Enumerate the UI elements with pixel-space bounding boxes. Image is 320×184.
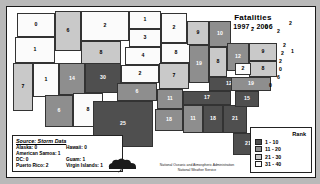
legend-swatch-4 [255,161,262,167]
map-image: 0162817143068134262528711189191081212171… [0,0,320,184]
state-value-ok: 6 [136,89,139,94]
state-il: 19 [189,45,209,83]
legend-item-2: 11 - 20 [255,146,309,152]
state-wy: 8 [81,41,121,65]
state-value-ar: 11 [167,96,172,101]
state-ks: 2 [121,65,159,83]
state-value-mt: 2 [104,23,107,28]
state-ar: 11 [157,89,183,109]
state-value-il: 19 [196,61,202,66]
state-ut: 14 [59,63,85,95]
state-value-sc: 15 [244,96,250,101]
state-wv: 2 [235,63,251,75]
state-value-ks: 2 [139,71,142,76]
state-value-ga: 21 [232,116,238,121]
legend-swatch-1 [255,139,262,145]
state-wi: 9 [187,21,209,45]
state-value-mi: 10 [217,31,223,36]
state-value-nm: 8 [87,107,90,112]
state-value-sd: 3 [144,35,147,40]
state-value-az: 6 [58,108,61,113]
state-value-ut: 14 [69,76,75,81]
source-row-4: Puerto Rico: 2Virgin Islands: 1 [16,163,119,169]
state-value-in: 8 [217,59,220,64]
legend-label-3: 21 - 30 [265,154,281,160]
state-value-ca: 7 [22,84,25,89]
state-value-wi: 9 [197,30,200,35]
state-value-oh: 12 [235,54,241,59]
state-ne: 4 [125,47,161,65]
state-mo: 7 [159,63,189,89]
state-in: 8 [209,47,227,77]
state-sc: 15 [235,91,259,107]
state-tn: 17 [183,91,231,105]
state-value-co: 30 [100,75,106,80]
md-label: 6 [277,75,280,80]
map-title: Fatalities 1997 - 2006 [213,13,293,30]
state-value-mn: 2 [173,25,176,30]
state-al: 18 [203,105,223,133]
source-rows: Alaska: 0Hawaii: 0American Samoa: 1DC: 0… [16,145,119,169]
state-co: 30 [85,63,121,93]
state-value-tx: 25 [120,121,126,126]
state-ca: 7 [13,63,33,111]
source-row-4-left: Puerto Rico: 2 [16,163,66,169]
map-frame: 0162817143068134262528711189191081212171… [6,6,316,178]
state-pa: 9 [249,43,277,61]
credit-text: National Oceanic and Atmospheric Adminis… [155,163,239,172]
source-row-1-right: Hawaii: 0 [66,145,87,151]
state-va: 8 [249,61,277,77]
state-nv: 1 [33,63,59,97]
legend-swatch-3 [255,154,262,160]
state-value-nv: 1 [45,77,48,82]
state-value-wy: 8 [100,50,103,55]
state-value-mo: 7 [173,73,176,78]
source-header: Source: Storm Data [16,138,119,144]
state-ok: 6 [117,83,157,101]
state-value-ne: 4 [142,53,145,58]
legend-label-2: 11 - 20 [265,146,281,152]
state-nc: 19 [231,77,271,91]
legend-item-1: 1 - 10 [255,139,309,145]
ri-label: 1 [291,49,294,54]
ma-label: 2 [283,43,286,48]
legend-header: Rank [255,131,309,137]
legend: Rank 1 - 1011 - 2021 - 3031 - 40 [250,127,312,173]
state-mt: 2 [81,11,129,41]
state-ga: 21 [223,105,247,133]
state-or: 1 [15,37,55,63]
title-line-1: Fatalities [213,13,293,22]
legend-label-1: 1 - 10 [265,139,278,145]
state-value-pa: 9 [262,49,265,54]
state-value-va: 8 [262,66,265,71]
title-line-2: 1997 - 2006 [213,23,293,30]
nj-label: 2 [279,59,282,64]
state-nd: 1 [129,11,161,29]
state-value-or: 1 [34,47,37,52]
state-value-nc: 19 [248,81,254,86]
ct-label: 2 [281,51,284,56]
de-label: 0 [279,67,282,72]
source-row-4-right: Virgin Islands: 1 [66,163,103,169]
state-value-ms: 11 [190,116,195,121]
state-ms: 11 [183,105,203,133]
legend-item-3: 21 - 30 [255,154,309,160]
state-value-la: 18 [166,117,172,122]
state-sd: 3 [129,29,161,47]
state-id: 6 [55,11,81,51]
state-value-al: 18 [210,116,216,121]
state-value-wv: 2 [242,66,245,71]
state-mn: 2 [161,13,187,43]
state-ia: 8 [161,43,191,63]
state-value-nd: 1 [144,17,147,22]
state-az: 6 [45,95,73,127]
state-value-wa: 0 [35,22,38,27]
state-wa: 0 [17,13,55,37]
legend-label-4: 31 - 40 [265,161,281,167]
legend-rows: 1 - 1011 - 2021 - 3031 - 40 [255,139,309,168]
state-value-tn: 17 [204,95,210,100]
storm-cloud-icon [107,157,147,173]
legend-swatch-2 [255,146,262,152]
dc-label: 0 [269,83,272,88]
state-la: 18 [155,109,183,131]
